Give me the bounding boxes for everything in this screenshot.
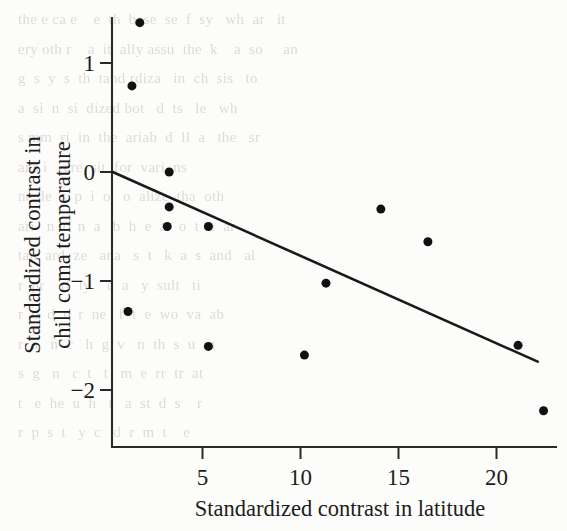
y-tick-label: −2	[71, 378, 95, 403]
regression-line	[113, 172, 538, 362]
y-axis-tick-marks	[100, 63, 112, 390]
scanned-page: the e ca e e th base se f sy wh ar itery…	[0, 0, 567, 531]
y-tick-label: 0	[84, 160, 96, 185]
data-point	[321, 279, 330, 288]
x-tick-label: 15	[387, 465, 410, 490]
scatter-plot-figure: 10−1−2 5101520 Standardized contrast in …	[0, 0, 567, 531]
chart-svg: 10−1−2 5101520 Standardized contrast in …	[0, 0, 567, 531]
y-tick-label: 1	[84, 51, 96, 76]
data-point	[163, 222, 172, 231]
x-axis-title: Standardized contrast in latitude	[195, 496, 486, 521]
data-point	[204, 342, 213, 351]
data-point	[165, 168, 174, 177]
plot-axes	[112, 18, 556, 447]
y-axis-title-line-1: Standardized contrast in	[20, 136, 45, 353]
data-point	[135, 18, 144, 27]
data-point	[165, 202, 174, 211]
data-point-group	[124, 18, 549, 415]
data-point	[514, 341, 523, 350]
data-point	[124, 307, 133, 316]
data-point	[376, 205, 385, 214]
x-tick-label: 5	[197, 465, 209, 490]
x-axis-tick-marks	[203, 447, 497, 459]
y-axis-title-line-2: chill coma temperature	[50, 141, 75, 348]
data-point	[300, 351, 309, 360]
data-point	[204, 222, 213, 231]
x-tick-label: 20	[485, 465, 508, 490]
data-point	[423, 237, 432, 246]
x-tick-label: 10	[289, 465, 312, 490]
y-axis-title: Standardized contrast in chill coma temp…	[20, 136, 75, 353]
data-point	[127, 81, 136, 90]
x-axis-tick-labels: 5101520	[197, 465, 508, 490]
data-point	[539, 406, 548, 415]
